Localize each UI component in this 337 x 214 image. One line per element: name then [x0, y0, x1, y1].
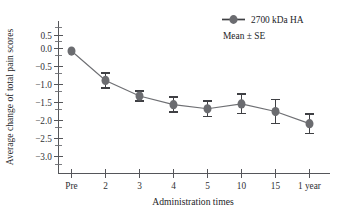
axes-group [59, 21, 331, 174]
y-tick-label: 0.0 [40, 44, 52, 54]
series-0 [68, 46, 314, 133]
data-point-marker [102, 76, 110, 85]
x-tick-label: 10 [237, 181, 247, 191]
y-tick-label: 0.5 [40, 31, 52, 41]
y-tick-label: −1.0 [35, 80, 52, 90]
y-tick-label: −1.5 [35, 98, 52, 108]
data-series-layer [68, 46, 314, 133]
data-point-marker [68, 46, 76, 55]
x-tick-label: 5 [205, 181, 210, 191]
x-tick-label: 15 [271, 181, 281, 191]
y-tick-label: −3.0 [35, 152, 52, 162]
x-axis-tick-labels: Pre 2 3 4 5 10 15 1 year [65, 181, 322, 191]
x-tick-label: 2 [103, 181, 108, 191]
x-tick-label: 4 [171, 181, 176, 191]
y-tick-label: −2.0 [35, 116, 52, 126]
x-tick-label: 1 year [298, 181, 322, 191]
data-point-marker [306, 119, 314, 128]
y-tick-label: −0.5 [35, 62, 52, 72]
y-axis-title: Average change of total pain scores [4, 29, 15, 166]
y-tick-label: −2.5 [35, 134, 52, 144]
legend-marker-icon [229, 15, 237, 24]
data-point-marker [204, 104, 212, 113]
y-axis-tick-labels: 0.5 0.0 −0.5 −1.0 −1.5 −2.0 −2.5 −3.0 [35, 31, 52, 162]
chart-figure: 0.5 0.0 −0.5 −1.0 −1.5 −2.0 −2.5 −3.0 Pr… [0, 0, 337, 214]
x-tick-label: 3 [137, 181, 142, 191]
chart-canvas: 0.5 0.0 −0.5 −1.0 −1.5 −2.0 −2.5 −3.0 Pr… [0, 0, 337, 214]
data-point-marker [238, 99, 246, 108]
data-point-marker [170, 100, 178, 109]
legend-series-label: 2700 kDa HA [251, 15, 304, 25]
x-tick-label: Pre [65, 181, 77, 191]
data-point-marker [136, 91, 144, 100]
data-point-marker [272, 107, 280, 116]
legend: 2700 kDa HA Mean ± SE [222, 15, 304, 41]
legend-note: Mean ± SE [223, 31, 265, 41]
x-axis-title: Administration times [152, 196, 234, 207]
